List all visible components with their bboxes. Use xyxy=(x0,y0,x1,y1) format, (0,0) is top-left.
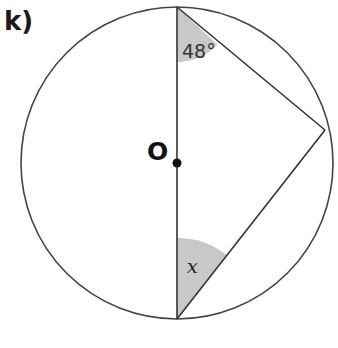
center-label: O xyxy=(147,137,168,166)
angle-sector-bottom xyxy=(177,238,227,319)
circle-diagram: O 48° x xyxy=(0,0,338,348)
center-point xyxy=(173,159,182,168)
angle-label-top: 48° xyxy=(182,40,216,62)
chord-bottom-right xyxy=(177,130,325,319)
angle-label-bottom: x xyxy=(187,255,198,277)
